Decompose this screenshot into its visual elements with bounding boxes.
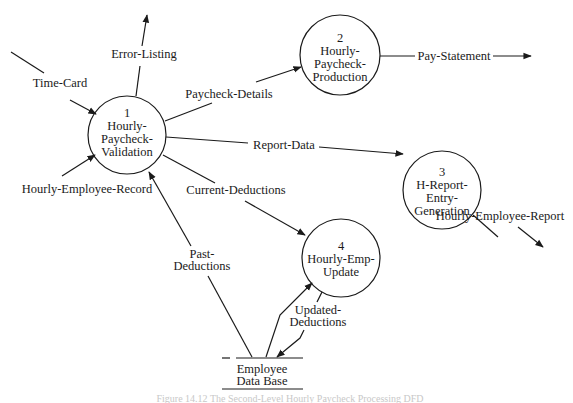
flow-time-card-line-b [70,100,96,114]
figure-caption: Figure 14.12 The Second-Level Hourly Pay… [157,393,424,403]
flow-error-listing-label: Error-Listing [111,47,177,61]
process-4-label-line-2: Update [323,265,360,279]
flow-error-listing-line-a [136,66,140,96]
process-1-label-line-3: Validation [101,145,153,159]
flow-paycheck-details-label: Paycheck-Details [185,87,273,101]
process-2-hourly-paycheck-production: 2 Hourly- Paycheck- Production [300,15,380,95]
flow-time-card: Time-Card [11,52,96,114]
process-3-label-line-1: H-Report- [416,178,467,192]
flow-past-deductions: Past- Deductions [149,172,252,357]
flow-paycheck-details-line-b [256,67,301,82]
flow-updated-deductions-label-line-2: Deductions [290,315,347,329]
flow-current-deductions: Current-Deductions [163,155,305,235]
flow-report-data-label: Report-Data [253,138,315,152]
flow-hourly-employee-record-label: Hourly-Employee-Record [22,182,153,196]
process-1-label-line-2: Paycheck- [101,132,153,146]
data-store-employee-data-base: Employee Data Base [222,358,303,389]
flow-hourly-employee-report-line-b [518,227,543,247]
flow-current-deductions-label: Current-Deductions [186,183,285,197]
flow-pay-statement-label: Pay-Statement [418,49,491,63]
flow-updated-deductions-line-b [277,330,304,357]
data-flow-diagram: 1 Hourly- Paycheck- Validation 2 Hourly-… [0,0,573,403]
flow-hourly-employee-record-line [62,155,95,176]
process-2-label-line-2: Paycheck- [314,57,366,71]
process-4-hourly-emp-update: 4 Hourly-Emp- Update [302,219,380,297]
flow-current-deductions-line-b [245,201,305,235]
process-4-number: 4 [338,239,345,253]
flow-time-card-label: Time-Card [33,76,88,90]
flow-paycheck-details: Paycheck-Details [165,67,301,121]
flow-time-card-line-a [11,52,44,73]
process-2-label-line-1: Hourly- [320,44,360,58]
flow-updated-deductions: Updated- Deductions [277,292,347,357]
process-2-label-line-3: Production [313,70,369,84]
process-1-label-line-1: Hourly- [107,119,147,133]
flow-error-listing-line-b [142,15,147,46]
flow-hourly-employee-record: Hourly-Employee-Record [22,155,153,196]
process-3-number: 3 [439,165,445,179]
flow-updated-deductions-line-a [317,292,322,302]
process-2-number: 2 [337,31,343,45]
process-1-hourly-paycheck-validation: 1 Hourly- Paycheck- Validation [88,96,166,174]
flow-report-data-line-a [166,137,248,143]
flow-error-listing: Error-Listing [111,15,177,96]
flow-hourly-employee-report-label: Hourly-Employee-Report [436,209,565,223]
data-store-label-line-2: Data Base [236,374,287,388]
flow-report-data: Report-Data [166,137,403,154]
flow-past-deductions-line-b [149,172,191,246]
flow-past-deductions-line-a [208,276,252,357]
flow-pay-statement: Pay-Statement [380,49,531,63]
process-1-number: 1 [124,106,130,120]
process-3-label-line-2: Entry- [426,191,458,205]
process-4-label-line-1: Hourly-Emp- [307,252,374,266]
flow-current-deductions-line-a [163,155,215,183]
flow-report-data-line-b [319,147,403,154]
flow-past-deductions-label-line-2: Deductions [174,259,231,273]
flow-hourly-employee-report: Hourly-Employee-Report [436,209,565,247]
flow-paycheck-details-line-a [165,103,212,121]
